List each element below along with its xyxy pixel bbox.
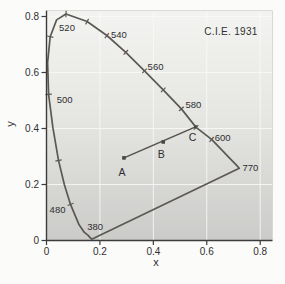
chromaticity-chart: 00.20.40.60.800.20.40.60.852054056058060… <box>0 0 285 284</box>
y-tick-label: 0.6 <box>25 67 39 78</box>
point-label-C: C <box>189 131 197 143</box>
x-tick-label: 0.2 <box>93 246 107 257</box>
wavelength-label-480: 480 <box>50 204 66 215</box>
x-tick-label: 0.4 <box>146 246 160 257</box>
y-tick-label: 0.8 <box>25 11 39 22</box>
x-tick-label: 0.6 <box>200 246 214 257</box>
y-tick-label: 0 <box>33 235 39 246</box>
wavelength-label-380: 380 <box>87 221 103 232</box>
y-tick-label: 0.2 <box>25 179 39 190</box>
point-label-B: B <box>158 148 165 160</box>
point-label-A: A <box>118 166 125 178</box>
wavelength-label-540: 540 <box>111 29 127 40</box>
wavelength-label-580: 580 <box>185 99 201 110</box>
wavelength-label-770: 770 <box>242 162 258 173</box>
wavelength-label-520: 520 <box>59 22 75 33</box>
chart-title: C.I.E. 1931 <box>201 26 261 37</box>
wavelength-label-600: 600 <box>215 132 231 143</box>
y-tick-label: 0.4 <box>25 123 39 134</box>
point-marker-A <box>122 156 126 160</box>
x-tick-label: 0.8 <box>253 246 267 257</box>
wavelength-label-500: 500 <box>57 94 73 105</box>
point-marker-C <box>194 125 197 128</box>
y-axis-name: y <box>4 115 18 133</box>
cie-1931-chromaticity-figure: 00.20.40.60.800.20.40.60.852054056058060… <box>0 0 285 284</box>
wavelength-label-560: 560 <box>148 61 164 72</box>
x-axis-name: x <box>148 256 164 268</box>
point-marker-B <box>161 140 165 144</box>
x-tick-label: 0 <box>44 246 50 257</box>
